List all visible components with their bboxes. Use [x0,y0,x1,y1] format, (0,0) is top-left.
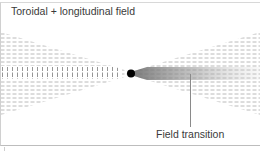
diagram-title: Toroidal + longitudinal field [11,5,135,17]
right-vector-wedge [130,30,261,120]
left-vector-wedge [0,30,130,120]
center-dot [127,70,135,78]
corner-tick [4,147,5,151]
field-transition-label: Field transition [156,128,224,140]
